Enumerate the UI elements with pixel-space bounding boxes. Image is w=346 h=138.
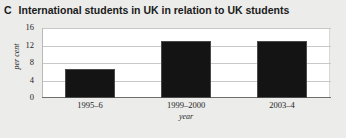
y-tick-label: 0	[0, 93, 34, 102]
x-tick-label: 1995–6	[42, 100, 138, 110]
chart-header: C International students in UK in relati…	[0, 0, 346, 19]
y-tick-label: 4	[0, 76, 34, 85]
panel-letter: C	[4, 4, 12, 16]
x-tick-label: 2003–4	[234, 100, 330, 110]
y-tick-label: 8	[0, 58, 34, 67]
x-axis-label: year	[42, 112, 330, 121]
bar	[257, 41, 307, 98]
page-title: International students in UK in relation…	[19, 4, 290, 16]
y-tick-label: 12	[0, 41, 34, 50]
bar	[161, 41, 211, 98]
chart-figure: C International students in UK in relati…	[0, 0, 346, 138]
gridline	[43, 28, 331, 29]
y-tick-label: 16	[0, 23, 34, 32]
x-tick-label: 1999–2000	[138, 100, 234, 110]
bar	[65, 69, 115, 98]
